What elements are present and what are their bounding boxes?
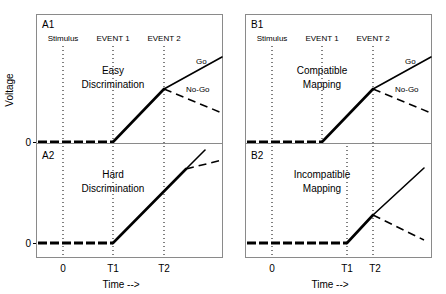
- panel-b1-nogo-label: No-Go: [395, 85, 419, 94]
- x-axis-left: 0 T1 T2 Time -->: [60, 263, 170, 290]
- panel-b2: B2 Incompatible Mapping: [246, 144, 432, 258]
- panel-b1-condition-line1: Compatible: [297, 65, 348, 76]
- x-tick-left-0: 0: [60, 263, 66, 274]
- figure-container: Voltage 0 0 A1 Stimulus EVENT 1 EVENT 2 …: [0, 0, 446, 294]
- panel-b1-condition-line2: Mapping: [303, 79, 341, 90]
- panel-a1-label: A1: [42, 19, 55, 30]
- marker-label-event2-a: EVENT 2: [147, 34, 181, 43]
- x-tick-right-t2: T2: [369, 263, 381, 274]
- x-axis-label-left: Time -->: [102, 279, 139, 290]
- panel-b2-frame: [246, 144, 432, 258]
- panel-a2: A2 Hard Discrimination: [37, 144, 223, 258]
- panel-a2-condition-line2: Discrimination: [82, 183, 145, 194]
- x-tick-right-t1: T1: [341, 263, 353, 274]
- marker-label-event1-b: EVENT 1: [305, 34, 339, 43]
- marker-label-event2-b: EVENT 2: [356, 34, 390, 43]
- x-tick-left-t2: T2: [158, 263, 170, 274]
- marker-label-stimulus-a: Stimulus: [48, 34, 79, 43]
- panel-b1: B1 Stimulus EVENT 1 EVENT 2 Compatible M…: [246, 15, 432, 144]
- panel-a1-nogo-label: No-Go: [186, 85, 210, 94]
- marker-label-event1-a: EVENT 1: [96, 34, 130, 43]
- marker-label-stimulus-b: Stimulus: [257, 34, 288, 43]
- panel-b1-go-label: Go: [405, 57, 416, 66]
- panel-b2-condition-line1: Incompatible: [294, 169, 351, 180]
- x-axis-label-right: Time -->: [311, 279, 348, 290]
- panel-a1-condition-line2: Discrimination: [82, 79, 145, 90]
- panel-b2-condition-line2: Mapping: [303, 183, 341, 194]
- y-tick-zero-bottom: 0: [25, 238, 31, 249]
- x-tick-left-t1: T1: [107, 263, 119, 274]
- panel-b1-label: B1: [251, 19, 264, 30]
- panel-a1: A1 Stimulus EVENT 1 EVENT 2 Easy Discrim…: [37, 15, 223, 144]
- y-tick-zero-top: 0: [25, 137, 31, 148]
- panel-a2-label: A2: [42, 150, 55, 161]
- panel-b2-label: B2: [251, 150, 264, 161]
- panel-a2-condition-line1: Hard: [102, 169, 124, 180]
- x-tick-right-0: 0: [269, 263, 275, 274]
- figure-svg: Voltage 0 0 A1 Stimulus EVENT 1 EVENT 2 …: [0, 0, 446, 294]
- y-axis-label: Voltage: [4, 73, 15, 107]
- panel-a1-go-label: Go: [196, 57, 207, 66]
- y-axis-group: Voltage 0 0: [4, 14, 37, 258]
- panel-a1-condition-line1: Easy: [102, 65, 124, 76]
- x-axis-right: 0 T1 T2 Time -->: [269, 263, 381, 290]
